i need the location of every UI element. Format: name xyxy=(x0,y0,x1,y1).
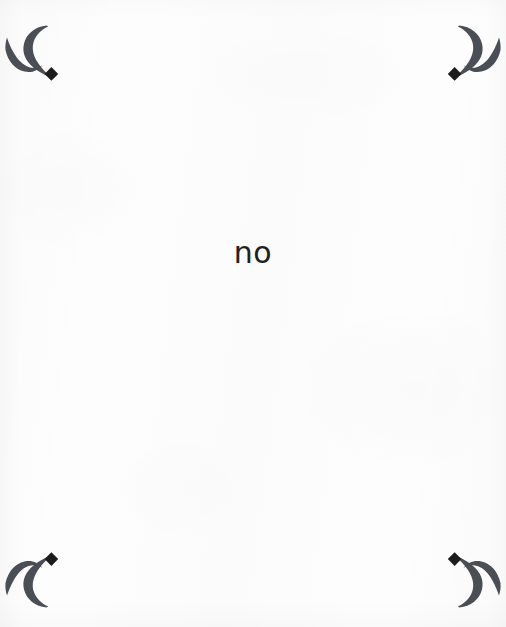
paper-texture xyxy=(0,0,506,627)
corner-flourish-ornament-bottom-left xyxy=(2,541,74,613)
ornament-diamond xyxy=(45,67,59,81)
corner-flourish-ornament-bottom-right xyxy=(432,541,504,613)
ornament-diamond xyxy=(448,67,462,81)
flourish-strokes xyxy=(5,555,52,608)
scanned-page: no xyxy=(0,0,506,627)
corner-flourish-ornament-top-left xyxy=(2,20,74,92)
ornament-diamond xyxy=(448,552,462,566)
page-edge-shading xyxy=(0,0,506,627)
flourish-strokes xyxy=(5,26,52,79)
flourish-strokes xyxy=(454,26,501,79)
ornament-diamond xyxy=(45,552,59,566)
flourish-strokes xyxy=(454,555,501,608)
corner-flourish-ornament-top-right xyxy=(432,20,504,92)
page-center-word: no xyxy=(0,238,506,268)
